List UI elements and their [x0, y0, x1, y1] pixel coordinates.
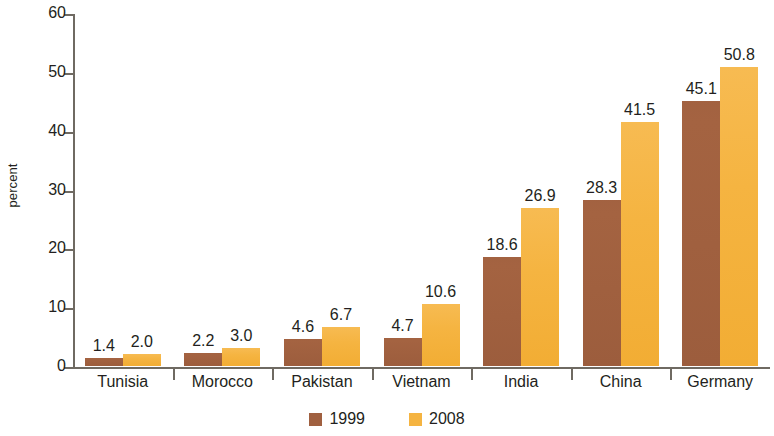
x-axis-category-label: Germany	[670, 372, 770, 392]
bar-group: 28.341.5	[583, 13, 659, 366]
bar: 50.8	[720, 67, 758, 366]
bar-chart: percent 6050403020100 1.42.02.23.04.66.7…	[0, 0, 774, 436]
y-axis-tick-label: 50	[48, 63, 66, 81]
bar: 3.0	[222, 348, 260, 366]
x-axis-category-label: Pakistan	[272, 372, 372, 392]
bar: 4.6	[284, 339, 322, 366]
y-axis-tick-label: 0	[57, 357, 66, 375]
x-axis-category-label: India	[471, 372, 571, 392]
bar: 45.1	[682, 101, 720, 366]
bar: 41.5	[621, 122, 659, 366]
legend-label: 1999	[329, 410, 365, 428]
bar-value-label: 41.5	[624, 101, 655, 119]
y-axis-tick-label: 30	[48, 181, 66, 199]
x-axis-category-label: China	[571, 372, 671, 392]
bar: 28.3	[583, 200, 621, 366]
bar: 10.6	[422, 304, 460, 366]
legend-item: 1999	[309, 410, 365, 428]
bar: 4.7	[384, 338, 422, 366]
bar-value-label: 4.7	[391, 317, 413, 335]
bar-value-label: 2.2	[192, 332, 214, 350]
bar: 18.6	[483, 257, 521, 366]
y-axis-title: percent	[5, 156, 20, 216]
bar-group: 1.42.0	[85, 13, 161, 366]
x-axis-category-label: Morocco	[173, 372, 273, 392]
bar-value-label: 3.0	[230, 327, 252, 345]
x-axis-category-label: Tunisia	[73, 372, 173, 392]
bar-value-label: 4.6	[292, 318, 314, 336]
bar-group: 4.710.6	[384, 13, 460, 366]
legend-item: 2008	[409, 410, 465, 428]
x-axis-line	[73, 367, 770, 369]
bar-value-label: 28.3	[586, 179, 617, 197]
bar-value-label: 50.8	[724, 46, 755, 64]
legend-swatch-icon	[309, 413, 322, 426]
bar: 2.2	[184, 353, 222, 366]
bar-value-label: 2.0	[131, 333, 153, 351]
bar-value-label: 6.7	[330, 306, 352, 324]
y-axis-tick-label: 40	[48, 122, 66, 140]
bar-group: 2.23.0	[184, 13, 260, 366]
x-axis-category-label: Vietnam	[372, 372, 472, 392]
bar-value-label: 18.6	[486, 236, 517, 254]
bar-value-label: 26.9	[524, 187, 555, 205]
legend-label: 2008	[429, 410, 465, 428]
bar-value-label: 10.6	[425, 283, 456, 301]
plot-area: 6050403020100 1.42.02.23.04.66.74.710.61…	[73, 14, 770, 368]
bar: 26.9	[521, 208, 559, 366]
bar: 1.4	[85, 358, 123, 366]
bar: 6.7	[322, 327, 360, 366]
y-axis-tick-label: 20	[48, 239, 66, 257]
bar-group: 18.626.9	[483, 13, 559, 366]
y-axis-tick-label: 60	[48, 4, 66, 22]
legend-swatch-icon	[409, 413, 422, 426]
chart-legend: 19992008	[0, 410, 774, 428]
y-axis-tick-label: 10	[48, 298, 66, 316]
bar-group: 4.66.7	[284, 13, 360, 366]
y-axis-line	[73, 14, 75, 369]
bar-value-label: 1.4	[93, 337, 115, 355]
bar-value-label: 45.1	[686, 80, 717, 98]
bar-group: 45.150.8	[682, 13, 758, 366]
bar: 2.0	[123, 354, 161, 366]
